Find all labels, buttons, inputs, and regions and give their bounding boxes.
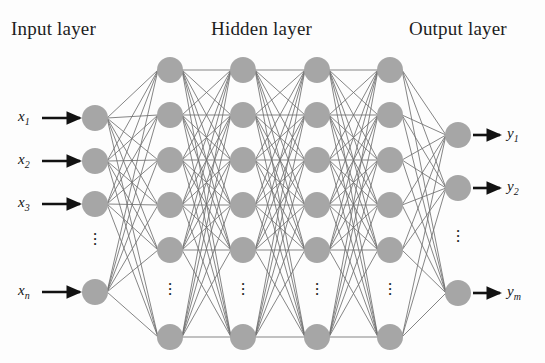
vertical-ellipsis-icon: ···	[383, 282, 397, 297]
neuron-node	[157, 192, 183, 218]
connection-line	[107, 161, 158, 250]
neuron-node	[377, 192, 403, 218]
vertical-ellipsis-icon: ···	[310, 282, 324, 297]
output-label-base: y	[507, 283, 514, 299]
input-label-base: x	[18, 108, 25, 124]
output-layer-title: Output layer	[409, 18, 507, 40]
ellipsis-dot: ·	[163, 292, 177, 297]
ellipsis-dot: ·	[383, 292, 397, 297]
connection-line	[402, 70, 446, 293]
neuron-node	[157, 102, 183, 128]
output-label-subscript: 2	[514, 186, 519, 197]
neuron-node	[157, 237, 183, 263]
neuron-node	[377, 324, 403, 350]
connection-line	[107, 115, 158, 204]
neuron-node	[304, 57, 330, 83]
input-label: x2	[18, 151, 30, 170]
input-label-subscript: n	[25, 290, 30, 301]
neuron-node	[304, 192, 330, 218]
hidden-layer-title: Hidden layer	[211, 18, 312, 40]
neuron-node	[445, 122, 471, 148]
connection-line	[107, 70, 158, 118]
output-label-base: y	[507, 178, 514, 194]
neuron-node	[82, 279, 108, 305]
connection-line	[107, 118, 158, 205]
neuron-node	[377, 147, 403, 173]
output-label: y2	[507, 178, 519, 197]
input-label-base: x	[18, 151, 25, 167]
input-label-base: x	[18, 282, 25, 298]
network-canvas	[0, 0, 545, 363]
neuron-node	[445, 175, 471, 201]
connection-line	[402, 115, 446, 293]
neuron-node	[230, 147, 256, 173]
connection-line	[402, 135, 446, 160]
neuron-node	[304, 324, 330, 350]
neuron-node	[82, 191, 108, 217]
input-label: x1	[18, 108, 30, 127]
connection-line	[107, 205, 158, 292]
neuron-node	[157, 147, 183, 173]
neuron-node	[230, 237, 256, 263]
connection-line	[402, 250, 446, 293]
vertical-ellipsis-icon: ···	[163, 282, 177, 297]
neuron-node	[377, 57, 403, 83]
output-label: y1	[507, 125, 519, 144]
connection-line	[107, 70, 158, 292]
connection-line	[107, 292, 158, 337]
connection-line	[402, 135, 446, 337]
neuron-node	[377, 237, 403, 263]
neuron-node	[304, 102, 330, 128]
connection-line	[107, 250, 158, 292]
neural-network-diagram: Input layer Hidden layer Output layer x1…	[0, 0, 545, 363]
neuron-node	[304, 147, 330, 173]
ellipsis-dot: ·	[451, 239, 465, 244]
neuron-node	[82, 105, 108, 131]
neuron-node	[157, 324, 183, 350]
neuron-node	[82, 148, 108, 174]
neuron-node	[230, 57, 256, 83]
vertical-ellipsis-icon: ···	[236, 282, 250, 297]
input-label-base: x	[18, 194, 25, 210]
neuron-node	[304, 237, 330, 263]
neuron-node	[157, 57, 183, 83]
neuron-node	[230, 102, 256, 128]
ellipsis-dot: ·	[236, 292, 250, 297]
vertical-ellipsis-icon: ···	[451, 229, 465, 244]
vertical-ellipsis-icon: ···	[88, 232, 102, 247]
input-label: xn	[18, 282, 30, 301]
output-label: ym	[507, 283, 521, 302]
ellipsis-dot: ·	[88, 242, 102, 247]
connection-line	[402, 205, 446, 293]
output-label-base: y	[507, 125, 514, 141]
connection-line	[107, 115, 158, 292]
neuron-node	[445, 280, 471, 306]
output-label-subscript: m	[514, 291, 521, 302]
neuron-node	[230, 192, 256, 218]
neuron-node	[230, 324, 256, 350]
output-label-subscript: 1	[514, 133, 519, 144]
input-label-subscript: 1	[25, 116, 30, 127]
input-layer-title: Input layer	[11, 18, 96, 40]
neuron-node	[377, 102, 403, 128]
ellipsis-dot: ·	[310, 292, 324, 297]
input-label: x3	[18, 194, 30, 213]
input-label-subscript: 3	[25, 202, 30, 213]
input-label-subscript: 2	[25, 159, 30, 170]
